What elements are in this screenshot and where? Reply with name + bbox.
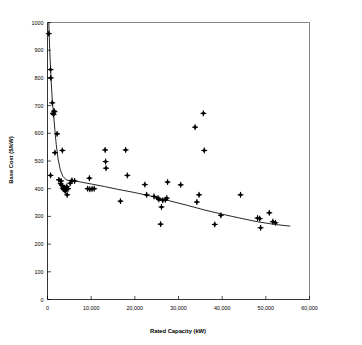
x-axis-title: Rated Capacity (kW): [150, 328, 206, 334]
data-point-tick-h: [158, 224, 164, 225]
data-point: [125, 173, 131, 179]
data-point: [48, 67, 54, 73]
y-tick-label: 600: [35, 130, 44, 136]
data-point-tick-h: [151, 196, 157, 197]
data-point-tick-h: [48, 175, 54, 176]
data-point: [48, 75, 54, 81]
x-tick-label: 0: [46, 305, 49, 311]
data-point-tick-h: [194, 201, 200, 202]
data-point-tick-h: [165, 182, 171, 183]
y-tick-label: 400: [35, 186, 44, 192]
data-point: [194, 199, 200, 205]
data-point: [200, 110, 206, 116]
data-point-tick-h: [48, 77, 54, 78]
y-tick-label: 900: [35, 47, 44, 53]
fitted-curve: [49, 23, 290, 227]
data-point: [196, 192, 202, 198]
x-tick-label: 10,000: [83, 305, 100, 311]
y-tick-label: 300: [35, 213, 44, 219]
x-axis-ticks: 010,00020,00030,00040,00050,00060,000: [46, 296, 318, 311]
scatter-plot: 010,00020,00030,00040,00050,00060,000 01…: [0, 0, 362, 345]
x-tick-label: 20,000: [127, 305, 144, 311]
data-points: [46, 31, 278, 231]
trend-line: [49, 23, 290, 227]
data-point: [118, 198, 124, 204]
data-point: [266, 210, 272, 216]
data-point: [165, 179, 171, 185]
y-tick-label: 700: [35, 103, 44, 109]
data-point: [103, 165, 109, 171]
data-point-tick-h: [64, 186, 70, 187]
data-point: [201, 148, 207, 154]
data-point-tick-h: [52, 152, 58, 153]
data-point-tick-h: [142, 184, 148, 185]
data-point: [46, 31, 52, 37]
data-point-tick-h: [49, 102, 55, 103]
y-tick-label: 0: [41, 297, 44, 303]
data-point: [192, 124, 198, 130]
data-point: [59, 148, 65, 154]
data-point-tick-h: [273, 222, 279, 223]
data-point-tick-h: [123, 149, 129, 150]
data-point: [258, 225, 264, 231]
plot-frame: [48, 23, 310, 300]
data-point: [48, 173, 54, 179]
x-tick-label: 40,000: [214, 305, 231, 311]
data-point: [102, 147, 108, 153]
data-point-tick-h: [257, 218, 263, 219]
data-point-tick-h: [238, 194, 244, 195]
data-point-tick-h: [63, 190, 69, 191]
axis-lines: [48, 23, 310, 300]
x-tick-label: 50,000: [258, 305, 275, 311]
data-point-tick-h: [159, 206, 165, 207]
data-point-tick-h: [46, 33, 52, 34]
data-point-tick-h: [201, 150, 207, 151]
data-point-tick-h: [65, 188, 71, 189]
data-point-tick-h: [48, 69, 54, 70]
y-tick-label: 200: [35, 241, 44, 247]
data-point: [238, 192, 244, 198]
data-point: [49, 100, 55, 106]
y-tick-label: 1000: [32, 20, 44, 26]
data-point-tick-h: [125, 175, 131, 176]
y-axis-title: Base Cost ($/kW): [8, 136, 14, 183]
data-point-tick-h: [91, 188, 97, 189]
data-point-tick-h: [52, 111, 58, 112]
data-point: [158, 221, 164, 227]
data-point-tick-h: [218, 215, 224, 216]
data-point-tick-h: [192, 127, 198, 128]
data-point: [103, 159, 109, 165]
y-tick-label: 100: [35, 269, 44, 275]
data-point: [87, 175, 93, 181]
data-point-tick-h: [164, 198, 170, 199]
data-point-tick-h: [196, 194, 202, 195]
data-point-tick-h: [200, 113, 206, 114]
data-point: [178, 182, 184, 188]
data-point: [212, 222, 218, 228]
y-tick-label: 500: [35, 158, 44, 164]
data-point: [142, 182, 148, 188]
plot-border: [48, 23, 310, 300]
data-point-tick-h: [64, 194, 70, 195]
data-point: [123, 147, 129, 153]
data-point-tick-h: [72, 180, 78, 181]
data-point-tick-h: [118, 201, 124, 202]
data-point-tick-h: [87, 178, 93, 179]
y-axis-ticks: 01002003004005006007008009001000: [32, 20, 52, 303]
y-tick-label: 800: [35, 75, 44, 81]
data-point-tick-h: [258, 227, 264, 228]
data-point-tick-h: [51, 114, 57, 115]
data-point-tick-h: [103, 161, 109, 162]
x-tick-label: 60,000: [301, 305, 318, 311]
data-point-tick-h: [102, 149, 108, 150]
data-point-tick-h: [103, 168, 109, 169]
x-tick-label: 30,000: [170, 305, 187, 311]
chart-container: 010,00020,00030,00040,00050,00060,000 01…: [0, 0, 362, 345]
data-point-tick-h: [178, 184, 184, 185]
data-point-tick-h: [266, 212, 272, 213]
data-point-tick-h: [54, 133, 60, 134]
data-point: [159, 204, 165, 210]
data-point-tick-h: [59, 150, 65, 151]
data-point: [144, 192, 150, 198]
data-point-tick-h: [144, 194, 150, 195]
